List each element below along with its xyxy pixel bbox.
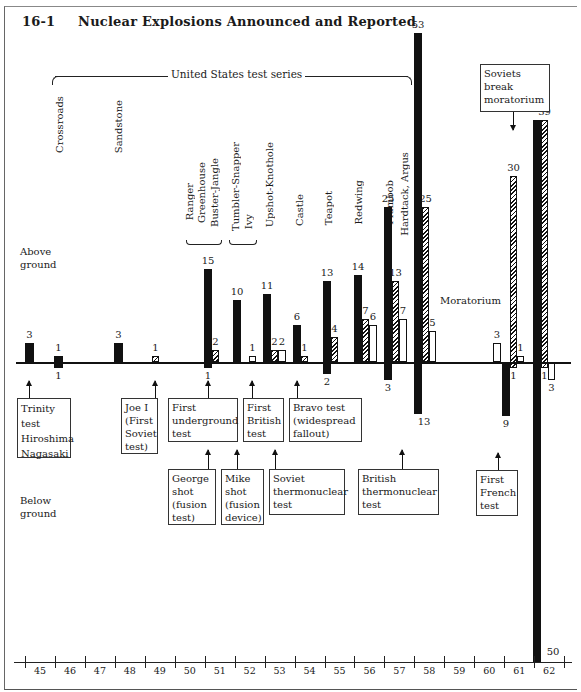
value-label-up-uk52: 1 (243, 342, 263, 353)
value-label-up-us51: 15 (198, 255, 218, 266)
year-label-61: 61 (505, 665, 533, 676)
annotation-first-underground: First underground test (168, 398, 238, 442)
year-label-50: 50 (176, 665, 204, 676)
bar-us62 (533, 120, 541, 662)
below-ground-label: Below ground (20, 494, 56, 520)
bar-uk58 (429, 331, 436, 362)
value-label-up-su49: 1 (146, 342, 166, 353)
series-ivy: Ivy (243, 214, 254, 229)
year-label-56: 56 (355, 665, 383, 676)
arrow-george (208, 450, 209, 470)
bar-su55 (331, 337, 338, 362)
bar-us56 (354, 275, 362, 362)
bar-us57 (384, 207, 392, 380)
above-ground-label: Above ground (20, 245, 56, 271)
bar-uk62 (548, 362, 555, 380)
value-label-down-us55: 2 (317, 376, 337, 387)
value-label-down-uk62: 3 (542, 382, 562, 393)
series-ranger: Ranger (184, 183, 195, 220)
series-greenhouse: Greenhouse (196, 162, 207, 223)
arrow-first-underground (208, 381, 209, 399)
value-label-down-us58: 13 (414, 416, 434, 427)
arrow-bravo (297, 381, 298, 399)
bar-us51 (204, 269, 212, 368)
brace-1951 (186, 240, 222, 245)
year-label-51: 51 (206, 665, 234, 676)
arrow-british-thermonuclear (402, 450, 403, 470)
value-label-up-fr60: 3 (487, 329, 507, 340)
year-label-46: 46 (56, 665, 84, 676)
value-label-up-su51: 2 (206, 336, 226, 347)
bar-uk57 (399, 319, 407, 362)
annotation-bravo: Bravo test (widespread fallout) (289, 398, 362, 442)
bar-us58 (414, 33, 422, 414)
year-label-45: 45 (26, 665, 54, 676)
value-label-up-us52: 10 (227, 286, 247, 297)
value-label-down-us61: 9 (496, 418, 516, 429)
annotation-joe1: Joe I (First Soviet test) (121, 398, 158, 454)
value-label-up-su57: 13 (386, 267, 406, 278)
annotation-trinity: Trinity test Hiroshima Nagasaki (17, 398, 71, 458)
year-label-53: 53 (266, 665, 294, 676)
arrow-first-british (252, 381, 253, 399)
arrow-trinity (29, 381, 30, 399)
figure-number: 16-1 (22, 14, 55, 29)
year-label-52: 52 (236, 665, 264, 676)
value-label-up-us58: 53 (408, 19, 428, 30)
value-label-up-us53: 11 (257, 280, 277, 291)
series-castle: Castle (294, 194, 305, 226)
arrow-mike (237, 450, 238, 470)
bar-us48 (114, 343, 123, 362)
us-series-brace-left-hook (52, 76, 59, 85)
value-label-up-us55: 13 (317, 267, 337, 278)
series-sandstone: Sandstone (113, 100, 124, 153)
year-label-48: 48 (116, 665, 144, 676)
brace-1952 (229, 240, 257, 245)
series-buster-jangle: Buster-Jangle (209, 158, 220, 227)
bar-us45 (25, 343, 34, 362)
bar-su58 (422, 207, 429, 362)
arrow-soviet-thermonuclear (275, 450, 276, 470)
value-label-up-uk53: 2 (272, 336, 292, 347)
value-label-up-us46: 1 (49, 342, 69, 353)
value-label-down-su61: 1 (504, 370, 524, 381)
value-label-up-us48: 3 (109, 329, 129, 340)
bar-su51 (212, 350, 219, 362)
value-label-down-us57: 3 (378, 382, 398, 393)
bar-su56 (362, 319, 369, 362)
value-label-up-uk56: 6 (363, 311, 383, 322)
bar-uk53 (278, 350, 286, 362)
value-label-up-fr61: 1 (511, 342, 531, 353)
year-label-58: 58 (415, 665, 443, 676)
arrow-joe1 (155, 381, 156, 399)
series-upshot-knothole: Upshot-Knothole (264, 142, 275, 227)
year-label-55: 55 (326, 665, 354, 676)
arrow-soviets-break (513, 112, 514, 130)
x-axis (14, 662, 572, 663)
value-label-up-us45: 3 (20, 329, 40, 340)
year-label-54: 54 (296, 665, 324, 676)
year-label-62: 62 (535, 665, 563, 676)
annotation-first-french: First French test (476, 470, 518, 516)
series-crossroads: Crossroads (54, 96, 65, 153)
year-label-59: 59 (445, 665, 473, 676)
bar-su61 (510, 176, 517, 368)
annotation-soviet-thermonuclear: Soviet thermonuclear test (269, 469, 345, 515)
us-series-brace-right (300, 76, 408, 77)
bar-fr60 (493, 343, 501, 362)
value-label-down-us62: 50 (543, 646, 563, 657)
annotation-george: George shot (fusion test) (168, 469, 216, 525)
series-hardtack-argus: Hardtack, Argus (399, 152, 410, 236)
bar-su62 (541, 120, 548, 368)
value-label-up-su61: 30 (504, 162, 524, 173)
value-label-up-su55: 4 (325, 323, 345, 334)
value-label-up-su54: 1 (295, 342, 315, 353)
bar-su53 (271, 350, 278, 362)
value-label-up-uk58: 5 (423, 317, 443, 328)
year-label-60: 60 (475, 665, 503, 676)
year-label-49: 49 (146, 665, 174, 676)
series-redwing: Redwing (353, 180, 364, 224)
year-label-47: 47 (86, 665, 114, 676)
series-tumbler-snapper: Tumbler-Snapper (230, 142, 241, 231)
ground-baseline (16, 362, 571, 364)
